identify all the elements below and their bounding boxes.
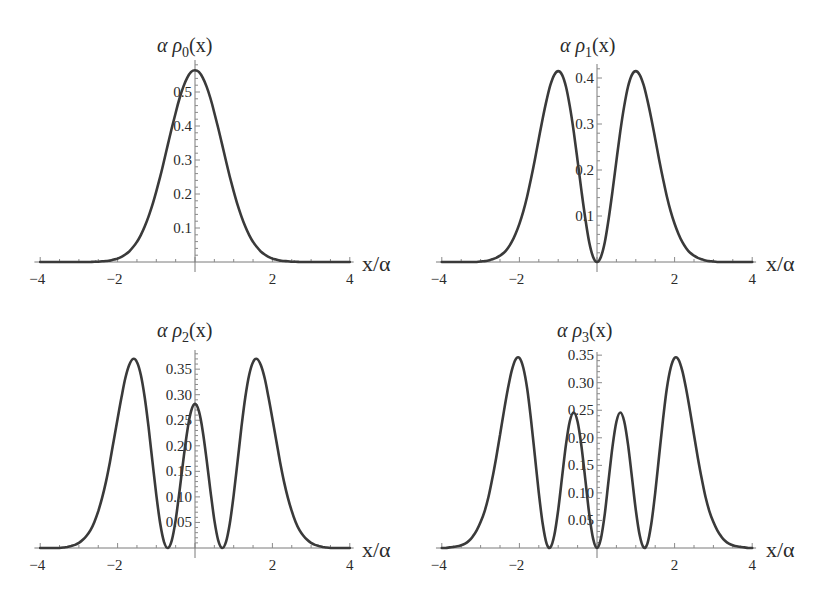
y-tick-label: 0.20 xyxy=(166,438,192,454)
x-tick-label: 2 xyxy=(671,271,679,287)
x-tick-label: 4 xyxy=(346,557,354,573)
y-tick-label: 0.4 xyxy=(173,118,192,134)
y-tick-label: 0.10 xyxy=(568,485,594,501)
x-tick-label: 2 xyxy=(269,271,277,287)
y-tick-label: 0.30 xyxy=(568,375,594,391)
x-tick-label: 4 xyxy=(748,557,756,573)
y-tick-label: 0.4 xyxy=(575,70,594,86)
x-tick-label: −4 xyxy=(29,557,45,573)
x-axis-label: x/α xyxy=(362,537,391,562)
y-tick-label: 0.2 xyxy=(173,186,192,202)
x-tick-label: −4 xyxy=(29,271,45,287)
y-tick-label: 0.3 xyxy=(575,116,594,132)
panel-rho2: −4−224x/α0.050.100.150.200.250.300.35α ρ… xyxy=(29,319,391,573)
panel-title: α ρ1(x) xyxy=(560,34,615,60)
panel-title: α ρ2(x) xyxy=(157,319,212,345)
panel-title: α ρ3(x) xyxy=(557,319,612,345)
x-axis-label: x/α xyxy=(362,251,391,276)
x-axis: −4−224x/α xyxy=(431,537,795,573)
y-tick-label: 0.35 xyxy=(166,361,192,377)
x-axis-label: x/α xyxy=(766,251,795,276)
y-axis: 0.050.100.150.200.250.300.35 xyxy=(568,347,602,558)
panel-rho3: −4−224x/α0.050.100.150.200.250.300.35α ρ… xyxy=(431,319,795,573)
y-tick-label: 0.1 xyxy=(173,220,192,236)
y-tick-label: 0.30 xyxy=(166,387,192,403)
y-tick-label: 0.35 xyxy=(568,347,594,363)
panel-rho1: −4−224x/α0.10.20.30.4α ρ1(x) xyxy=(431,34,795,287)
x-tick-label: −4 xyxy=(431,271,447,287)
x-axis: −4−224x/α xyxy=(431,251,795,287)
y-tick-label: 0.15 xyxy=(568,457,594,473)
x-axis: −4−224x/α xyxy=(29,537,391,573)
y-tick-label: 0.15 xyxy=(166,463,192,479)
x-axis-label: x/α xyxy=(766,537,795,562)
y-tick-label: 0.3 xyxy=(173,152,192,168)
y-axis: 0.10.20.30.40.5 xyxy=(173,60,200,272)
x-tick-label: 2 xyxy=(269,557,277,573)
panel-title: α ρ0(x) xyxy=(157,34,212,60)
x-tick-label: 4 xyxy=(748,271,756,287)
x-tick-label: −2 xyxy=(508,557,524,573)
x-tick-label: 4 xyxy=(346,271,354,287)
x-axis: −4−224x/α xyxy=(29,251,391,287)
x-tick-label: −2 xyxy=(107,557,123,573)
x-tick-label: 2 xyxy=(671,557,679,573)
panel-rho0: −4−224x/α0.10.20.30.40.5α ρ0(x) xyxy=(29,34,391,287)
figure-canvas: −4−224x/α0.10.20.30.40.5α ρ0(x) −4−224x/… xyxy=(0,0,832,601)
x-tick-label: −4 xyxy=(431,557,447,573)
x-tick-label: −2 xyxy=(107,271,123,287)
y-tick-label: 0.05 xyxy=(166,514,192,530)
x-tick-label: −2 xyxy=(508,271,524,287)
